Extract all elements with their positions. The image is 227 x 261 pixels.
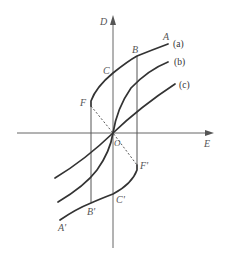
- e-axis-label: E: [203, 138, 210, 149]
- dashed-line-f-o-fprime: [91, 106, 137, 165]
- point-b-label: B: [132, 44, 138, 55]
- curve-b-tag: (b): [174, 57, 185, 68]
- origin-label: O: [114, 138, 121, 148]
- point-bprime-label: B': [87, 206, 96, 217]
- d-axis-arrow-icon: [110, 15, 116, 25]
- curve-c-tag: (c): [179, 80, 190, 91]
- point-f-label: F: [79, 97, 87, 108]
- point-cprime-label: C': [116, 194, 126, 205]
- point-fprime-label: F': [139, 160, 149, 171]
- d-axis-label: D: [99, 16, 108, 27]
- e-axis-arrow-icon: [205, 130, 214, 136]
- point-c-label: C: [103, 65, 110, 76]
- hysteresis-diagram: D E O A B C F F' C' B' A' (a) (b) (c): [0, 0, 227, 261]
- curve-c: [55, 84, 175, 178]
- curve-a-tag: (a): [173, 39, 184, 50]
- point-a-label: A: [162, 31, 170, 42]
- point-aprime-label: A': [57, 222, 67, 233]
